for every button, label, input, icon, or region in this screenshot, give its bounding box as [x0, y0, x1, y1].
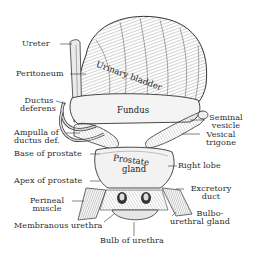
label-vesical-trigone-line2: trigone: [200, 139, 242, 147]
label-bulbourethral-line2: urethral gland: [170, 218, 230, 226]
label-ductus-deferens-line2: deferens: [18, 105, 58, 113]
anatomy-figure: Ureter Peritoneum Ductus deferens Ampull…: [0, 0, 262, 254]
label-right-lobe: Right lobe: [178, 162, 221, 170]
label-prostate-gland-line2: gland: [122, 165, 146, 174]
label-excretory-duct-line2: duct: [184, 193, 238, 201]
label-peritoneum: Peritoneum: [16, 70, 64, 78]
label-fundus: Fundus: [117, 106, 149, 115]
label-ureter: Ureter: [22, 40, 50, 48]
label-seminal-vesicle-line2: vesicle: [204, 122, 248, 130]
label-base-of-prostate: Base of prostate: [14, 150, 82, 158]
label-perineal-muscle-line2: muscle: [24, 205, 70, 213]
label-membranous-urethra: Membranous urethra: [14, 222, 102, 230]
label-bulb-of-urethra: Bulb of urethra: [100, 237, 164, 245]
label-apex-of-prostate: Apex of prostate: [14, 177, 82, 185]
label-ampulla-line2: ductus def.: [14, 137, 60, 145]
